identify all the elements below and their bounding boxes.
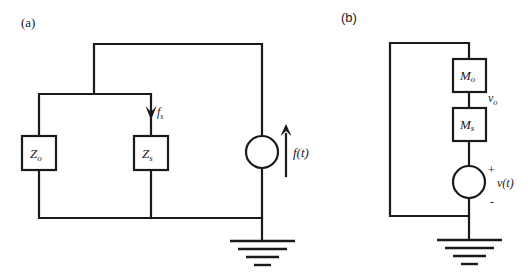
svg-text:fs: fs (157, 105, 163, 121)
mo-subscript: o (471, 74, 476, 84)
source-minus-sign: - (490, 195, 494, 209)
ms-subscript: s (471, 123, 475, 133)
vo-subscript: o (493, 98, 497, 107)
circuit-diagram: (a) Zo Zs fs f(t) (0, 0, 532, 278)
source-plus-sign: + (488, 163, 495, 177)
velocity-source-icon (453, 166, 485, 198)
source-label-ft: f(t) (293, 145, 309, 160)
impedance-zo: Zo (22, 136, 56, 170)
panel-a-label: (a) (21, 15, 35, 30)
zs-subscript: s (149, 153, 153, 163)
panel-a: (a) Zo Zs fs f(t) (21, 15, 309, 265)
top-wire (94, 44, 262, 136)
mass-mo: Mo (453, 59, 486, 92)
ground-icon (437, 240, 502, 264)
branch-wire (39, 94, 151, 136)
impedance-zs: Zs (134, 136, 168, 170)
panel-b-label: (b) (341, 10, 357, 25)
mass-ms: Ms (453, 108, 486, 141)
flow-source-icon (246, 136, 278, 168)
svg-text:vo: vo (488, 91, 497, 107)
fs-subscript: s (160, 112, 163, 121)
panel-b: (b) Mo vo Ms + - v(t) (341, 10, 514, 264)
source-label-vt: v(t) (497, 176, 514, 190)
ground-icon (230, 241, 295, 265)
zo-subscript: o (37, 153, 42, 163)
